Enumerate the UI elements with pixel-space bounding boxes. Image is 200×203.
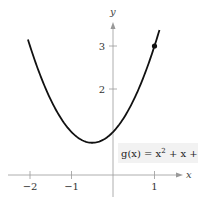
x-axis-arrow-icon — [176, 173, 183, 178]
data-points — [152, 43, 157, 48]
formula-prefix: g(x) = x — [121, 148, 162, 159]
function-graph: x y −2−1123 g(x) = x2 + x + 1 — [0, 0, 200, 203]
x-tick-label: 1 — [151, 181, 157, 192]
y-tick-label: 2 — [99, 84, 105, 95]
y-axis-arrow-icon — [111, 22, 116, 29]
tick-labels: −2−1123 — [23, 41, 158, 193]
x-axis-label: x — [186, 169, 192, 180]
parabola-curve — [28, 30, 160, 143]
formula-label: g(x) = x2 + x + 1 — [121, 147, 200, 159]
y-axis-label: y — [109, 6, 116, 17]
x-tick-label: −1 — [64, 181, 79, 192]
y-tick-label: 3 — [99, 41, 105, 52]
x-tick-label: −2 — [23, 181, 38, 192]
formula-suffix: + x + 1 — [166, 148, 200, 159]
point-marker — [152, 43, 157, 48]
